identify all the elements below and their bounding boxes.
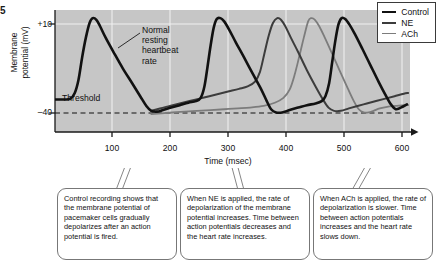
control-leader-a (116, 168, 139, 190)
plot-svg (0, 0, 438, 170)
legend-swatch-control (382, 11, 396, 13)
legend-item-ne[interactable]: NE (382, 17, 429, 28)
x-axis (55, 132, 412, 137)
legend-item-control[interactable]: Control (382, 6, 429, 17)
ach-leader-a (352, 168, 386, 190)
ne-callout: When NE is applied, the rate of depolari… (180, 188, 310, 260)
figure-container: 5 Membrane potential (mV) +10 –40 100 20… (0, 0, 438, 265)
control-callout: Control recording shows that the membran… (57, 188, 177, 260)
legend-item-ach[interactable]: ACh (382, 28, 429, 39)
normal-rate-line1: Normal (142, 25, 178, 35)
ach-callout: When ACh is applied, the rate of depolar… (313, 188, 433, 260)
threshold-annotation: Threshold (62, 93, 100, 103)
callout-container: Control recording shows that the membran… (0, 168, 438, 265)
legend-swatch-ne (382, 22, 396, 24)
normal-rate-line2: resting (142, 35, 178, 45)
plot-background (55, 10, 410, 132)
legend-label-control: Control (401, 7, 429, 17)
plot-area: Membrane potential (mV) +10 –40 100 200 … (0, 0, 438, 170)
legend: Control NE ACh (377, 2, 436, 43)
normal-rate-line4: rate (142, 56, 178, 66)
legend-label-ne: NE (401, 18, 413, 28)
control-leader-b (122, 168, 145, 190)
normal-rate-annotation: Normal resting heartbeat rate (142, 25, 178, 66)
normal-rate-line3: heartbeat (142, 45, 178, 55)
legend-label-ach: ACh (401, 29, 418, 39)
ne-leader-a (222, 168, 238, 190)
ach-leader-b (358, 168, 392, 190)
y-axis (49, 10, 55, 132)
legend-swatch-ach (382, 33, 396, 34)
ne-leader-b (228, 168, 244, 190)
